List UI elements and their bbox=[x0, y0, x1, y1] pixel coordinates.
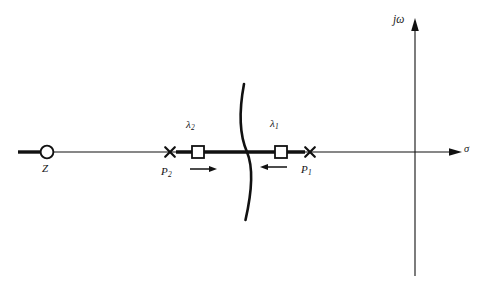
pole-p2-label-base: P bbox=[161, 165, 168, 177]
zero-marker-circle bbox=[41, 146, 54, 159]
lambda2-marker-square bbox=[192, 146, 204, 158]
root-locus-canvas bbox=[0, 0, 478, 289]
sigma-axis-arrowhead bbox=[449, 148, 462, 156]
pole-p2-label: P2 bbox=[161, 166, 172, 179]
jomega-axis bbox=[411, 18, 419, 276]
jomega-axis-arrowhead bbox=[411, 18, 419, 31]
pole-p1-label: P1 bbox=[301, 164, 312, 177]
lambda2-label-sub: 2 bbox=[191, 123, 195, 132]
root-locus-figure: jω σ Z P2 P1 λ2 λ1 bbox=[0, 0, 478, 289]
zero-label: Z bbox=[42, 163, 48, 174]
arrow-lambda2-moving-right bbox=[190, 166, 217, 172]
lambda1-marker-square bbox=[275, 146, 287, 158]
lambda1-label-sub: 1 bbox=[275, 122, 279, 131]
jomega-axis-label: jω bbox=[393, 14, 404, 26]
lambda2-label: λ2 bbox=[186, 119, 195, 132]
lambda1-label: λ1 bbox=[270, 118, 279, 131]
sigma-axis-label: σ bbox=[464, 144, 469, 155]
arrow-lambda1-moving-left bbox=[260, 164, 287, 170]
pole-p2-label-sub: 2 bbox=[168, 170, 172, 179]
pole-p1-label-base: P bbox=[301, 163, 308, 175]
pole-p1-label-sub: 1 bbox=[308, 168, 312, 177]
